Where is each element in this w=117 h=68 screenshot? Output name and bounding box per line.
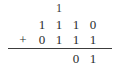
binary-addition-worksheet: 1 1 1 1 0 + 0 1 1 1 0 1 — [0, 0, 117, 68]
sum-digit-col4: 1 — [85, 52, 101, 65]
plus-operator: + — [16, 33, 30, 46]
addend2-digit-col2: 1 — [51, 33, 67, 46]
addend1-digit-col1: 1 — [34, 18, 50, 31]
addend1-digit-col4: 0 — [85, 18, 101, 31]
addend2-digit-col3: 1 — [68, 33, 84, 46]
addend1-digit-col3: 1 — [68, 18, 84, 31]
addend2-digit-col4: 1 — [85, 33, 101, 46]
addend2-digit-col1: 0 — [34, 33, 50, 46]
addition-rule-line — [8, 48, 112, 49]
addend1-digit-col2: 1 — [51, 18, 67, 31]
sum-digit-col3: 0 — [68, 52, 84, 65]
carry-digit-col2: 1 — [51, 2, 67, 14]
